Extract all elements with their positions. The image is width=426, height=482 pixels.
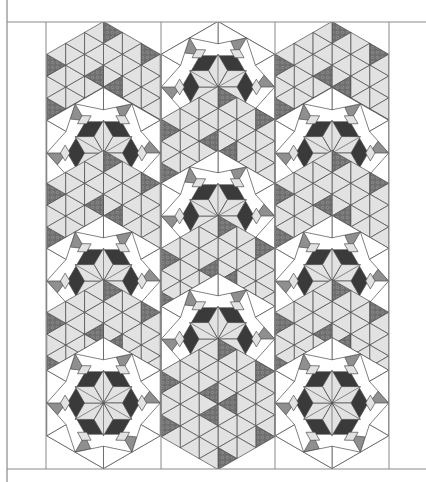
- quilt-diagram: [0, 0, 426, 482]
- quilt-blocks: [47, 22, 389, 470]
- quilt-svg: [0, 0, 426, 482]
